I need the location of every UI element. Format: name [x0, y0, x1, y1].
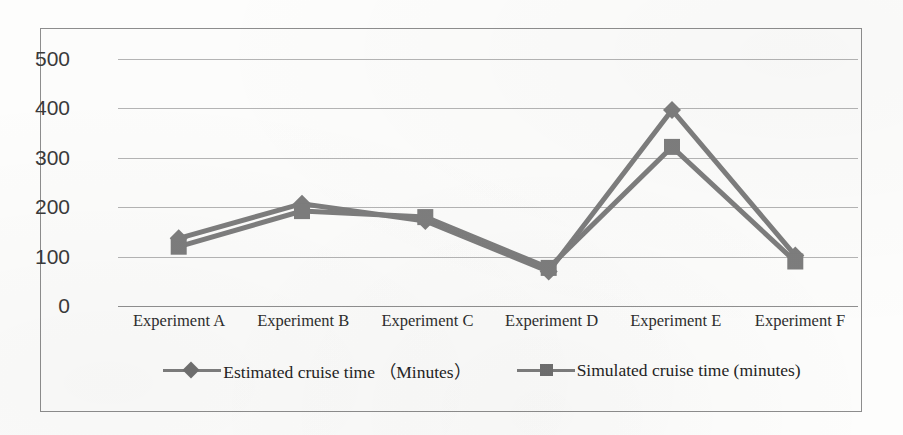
- y-tick-500: 500: [12, 48, 70, 69]
- gridline-400: [118, 108, 858, 109]
- y-axis-tick-labels: 500 400 300 200 100 0: [8, 58, 70, 305]
- x-tick-experiment-e: Experiment E: [614, 311, 738, 337]
- gridline-500: [118, 59, 858, 60]
- y-tick-400: 400: [12, 97, 70, 118]
- x-tick-experiment-f: Experiment F: [738, 311, 862, 337]
- gridline-200: [118, 207, 858, 208]
- plot-area: [118, 59, 863, 306]
- chart-legend: Estimated cruise time （Minutes） Simulate…: [117, 353, 847, 387]
- legend-diamond-marker-icon: [163, 362, 221, 378]
- legend-label-simulated: Simulated cruise time (minutes): [577, 360, 801, 381]
- legend-entry-simulated: Simulated cruise time (minutes): [517, 360, 801, 381]
- y-tick-0: 0: [12, 295, 70, 316]
- x-tick-experiment-b: Experiment B: [241, 311, 365, 337]
- x-tick-experiment-c: Experiment C: [365, 311, 489, 337]
- x-axis-tick-labels: Experiment A Experiment B Experiment C E…: [117, 311, 862, 337]
- legend-square-marker-icon: [517, 362, 575, 378]
- gridline-300: [118, 158, 858, 159]
- gridline-100: [118, 257, 858, 258]
- gridline-0-axis: [118, 306, 858, 307]
- y-tick-100: 100: [12, 245, 70, 266]
- x-tick-experiment-a: Experiment A: [117, 311, 241, 337]
- y-tick-300: 300: [12, 146, 70, 167]
- legend-entry-estimated: Estimated cruise time （Minutes）: [163, 358, 470, 383]
- legend-label-estimated: Estimated cruise time （Minutes）: [223, 358, 470, 383]
- x-tick-experiment-d: Experiment D: [490, 311, 614, 337]
- y-tick-200: 200: [12, 196, 70, 217]
- chart-screenshot: 500 400 300 200 100 0 Experiment A Exper…: [0, 0, 903, 435]
